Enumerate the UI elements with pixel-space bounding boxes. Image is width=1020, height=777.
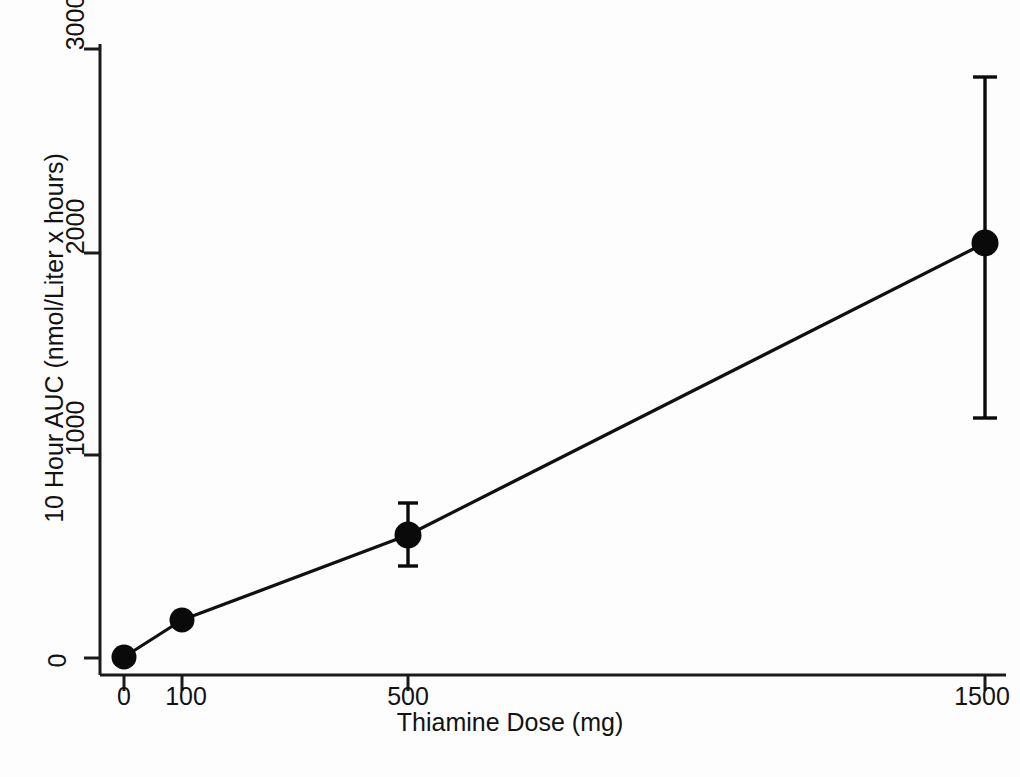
x-axis-ticks: [124, 675, 985, 691]
data-point-marker: [395, 522, 422, 549]
y-axis-title: 10 Hour AUC (nmol/Liter x hours): [40, 0, 69, 678]
y-axis-ticks: [84, 49, 100, 658]
x-tick-label-0: 0: [117, 682, 131, 711]
data-point-marker: [972, 230, 999, 257]
x-tick-label-100: 100: [165, 682, 207, 711]
x-tick-label-1500: 1500: [954, 682, 1010, 711]
data-point-marker: [170, 608, 195, 633]
chart-plot-area: [0, 0, 1020, 777]
data-line-series-1: [124, 243, 985, 657]
chart-figure: 0 1000 2000 3000 0 100 500 1500 Thiamine…: [0, 0, 1020, 777]
x-axis-title: Thiamine Dose (mg): [0, 708, 1020, 737]
x-tick-label-500: 500: [387, 682, 429, 711]
data-point-marker: [112, 645, 137, 670]
